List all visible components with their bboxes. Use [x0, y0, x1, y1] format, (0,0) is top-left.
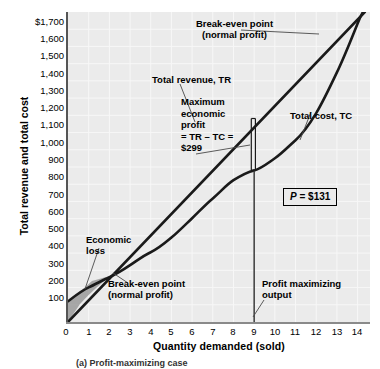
y-tick-1500: 1,500: [2, 51, 64, 61]
y-tick-600: 600: [2, 207, 64, 217]
x-tick-9: 9: [246, 326, 262, 338]
y-tick-200: 200: [2, 276, 64, 286]
x-tick-11: 11: [287, 326, 303, 338]
annotation-breakeven-top-line2: (normal profit): [196, 29, 273, 40]
annotation-breakeven-low: Break-even point (normal profit): [108, 278, 185, 300]
annotation-output-line1: Profit maximizing: [262, 278, 341, 289]
annotation-breakeven-low-line1: Break-even point: [108, 278, 185, 289]
horizontal-gridlines: [68, 29, 370, 305]
x-tick-8: 8: [225, 326, 241, 338]
x-axis-title: Quantity demanded (sold): [68, 340, 370, 352]
x-tick-7: 7: [205, 326, 221, 338]
annotation-economic-loss: Economic loss: [86, 234, 131, 256]
y-axis-title: Total revenue and total cost: [18, 56, 30, 276]
x-tick-6: 6: [184, 326, 200, 338]
annotation-output-line2: output: [262, 289, 341, 300]
x-tick-0: 0: [58, 326, 74, 338]
annotation-total-cost: Total cost, TC: [290, 110, 352, 121]
y-tick-labels: $1,700 1,600 1,500 1,400 1,300 1,200 1,1…: [0, 0, 64, 369]
annotation-breakeven-low-line2: (normal profit): [108, 289, 185, 300]
annotation-economic-loss-line2: loss: [86, 245, 131, 256]
annotation-breakeven-top-line1: Break-even point: [196, 18, 273, 29]
y-tick-700: 700: [2, 190, 64, 200]
x-tick-1: 1: [81, 326, 97, 338]
y-tick-100: 100: [2, 293, 64, 303]
x-tick-3: 3: [122, 326, 138, 338]
figure-profit-maximizing-case: $1,700 1,600 1,500 1,400 1,300 1,200 1,1…: [0, 0, 380, 369]
x-tick-2: 2: [101, 326, 117, 338]
y-tick-300: 300: [2, 259, 64, 269]
figure-caption: (a) Profit-maximizing case: [76, 358, 188, 368]
annotation-max-profit-line3: profit: [181, 119, 233, 131]
price-value: = $131: [299, 191, 330, 202]
y-tick-900: 900: [2, 155, 64, 165]
y-tick-1000: 1,000: [2, 138, 64, 148]
x-tick-13: 13: [329, 326, 345, 338]
annotation-economic-loss-line1: Economic: [86, 234, 131, 245]
y-tick-1300: 1,300: [2, 86, 64, 96]
x-tick-12: 12: [308, 326, 324, 338]
x-tick-4: 4: [143, 326, 159, 338]
price-symbol: P: [290, 191, 297, 202]
x-tick-14: 14: [349, 326, 365, 338]
x-tick-labels: 0 1 2 3 4 5 6 7 8 9 10 11 12 13 14: [0, 326, 380, 340]
y-tick-800: 800: [2, 172, 64, 182]
annotation-max-profit-line4: = TR – TC =: [181, 131, 233, 143]
y-tick-500: 500: [2, 224, 64, 234]
chart-svg: [68, 12, 370, 322]
x-axis-line: [66, 322, 370, 324]
x-tick-10: 10: [267, 326, 283, 338]
total-cost-curve: [68, 12, 366, 301]
y-tick-1400: 1,400: [2, 69, 64, 79]
plot-area: [68, 12, 370, 322]
annotation-profit-maximizing-output: Profit maximizing output: [262, 278, 341, 300]
y-tick-1600: 1,600: [2, 34, 64, 44]
annotation-max-profit: Maximum economic profit = TR – TC = $299: [181, 96, 233, 154]
price-label-box: P = $131: [283, 188, 337, 206]
x-tick-5: 5: [163, 326, 179, 338]
annotation-max-profit-line2: economic: [181, 108, 233, 120]
y-tick-1100: 1,100: [2, 120, 64, 130]
annotation-max-profit-line5: $299: [181, 142, 233, 154]
y-axis-line: [66, 12, 68, 324]
y-tick-1200: 1,200: [2, 103, 64, 113]
annotation-max-profit-line1: Maximum: [181, 96, 233, 108]
annotation-total-revenue: Total revenue, TR: [152, 74, 231, 85]
y-tick-400: 400: [2, 241, 64, 251]
y-tick-1700: $1,700: [2, 17, 64, 27]
annotation-breakeven-top: Break-even point (normal profit): [196, 18, 273, 40]
